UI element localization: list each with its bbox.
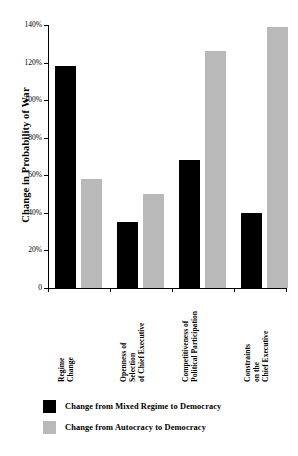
legend-swatch-mixed-regime [43,400,56,413]
x-axis-label-line: on the [252,331,261,382]
y-axis-tick-label: 40% [28,209,42,217]
y-axis-line [48,25,49,288]
legend-label-mixed-regime: Change from Mixed Regime to Democracy [65,402,221,411]
x-axis-label-line: Chief Executive [261,331,270,382]
y-axis-tick [44,63,48,64]
x-axis-tick [110,288,111,292]
x-axis-category-label: Openness ofSelectionof Chief Executive [119,323,147,382]
bar [179,160,200,288]
y-axis-tick-label: 60% [28,172,42,180]
x-axis-tick [286,288,287,292]
y-axis-tick-label: 140% [25,21,43,29]
bar-chart-figure: Change in Probability of War 140%120%100… [0,0,298,456]
x-axis-label-line: Regime [57,357,66,382]
legend-item: Change from Autocracy to Democracy [43,417,293,438]
x-axis-label-line: Selection [128,323,137,382]
x-axis-label-line: Competitiveness of [181,311,190,382]
legend-swatch-autocracy [43,421,56,434]
x-axis-label-line: Political Participation [190,311,199,382]
x-axis-category-label: RegimeChange [57,357,75,382]
legend-item: Change from Mixed Regime to Democracy [43,396,293,417]
y-axis-tick [44,138,48,139]
bar [117,222,138,288]
y-axis-tick-label: 120% [25,59,43,67]
y-axis-tick [44,213,48,214]
x-axis-tick [234,288,235,292]
x-axis-label-line: Constraints [243,331,252,382]
x-axis-label-line: Openness of [119,323,128,382]
bar [143,194,164,288]
legend-label-autocracy: Change from Autocracy to Democracy [65,423,206,432]
x-axis-category-label: Competitiveness ofPolitical Participatio… [181,311,199,382]
x-axis-label-line: of Chief Executive [137,323,146,382]
x-axis-category-label: Constraintson theChief Executive [243,331,271,382]
bar [267,27,288,288]
y-axis-tick-label: 80% [28,134,42,142]
y-axis-tick [44,175,48,176]
x-axis-label-line: Change [66,357,75,382]
y-axis-tick-label: 20% [28,247,42,255]
bar [241,213,262,288]
x-axis-tick [172,288,173,292]
bar [205,51,226,288]
y-axis-tick-label: 100% [25,96,43,104]
y-axis-tick [44,250,48,251]
bar [81,179,102,288]
y-axis-tick-label: 0 [38,284,42,292]
y-axis-tick [44,100,48,101]
y-axis-tick [44,25,48,26]
x-axis-line [48,288,287,289]
x-axis-tick [48,288,49,292]
plot-area: 140%120%100%80%60%40%20%0 [48,25,287,288]
legend: Change from Mixed Regime to Democracy Ch… [43,396,293,438]
bar [55,66,76,288]
